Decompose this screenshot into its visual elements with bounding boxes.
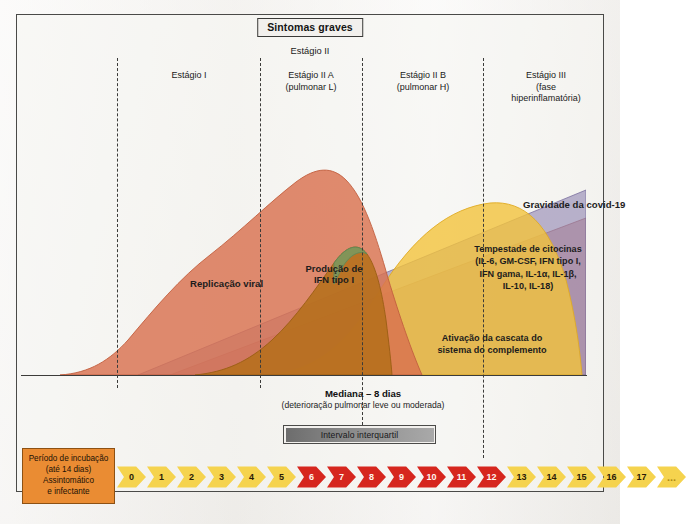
label-complement-line1: Ativação da cascata do: [437, 332, 546, 344]
day-arrow-label: 9: [399, 472, 404, 482]
label-viral-replication: Replicação viral: [190, 278, 263, 289]
day-arrow-label: 17: [636, 472, 646, 482]
day-arrow-14: 14: [537, 465, 566, 490]
day-arrow-label: 7: [339, 472, 344, 482]
label-ifn-production: Produção de IFN tipo I: [306, 263, 363, 285]
day-arrow-label: 15: [576, 472, 586, 482]
label-cytokine-line2: (IL-6, GM-CSF, IFN tipo I,: [474, 255, 581, 267]
day-arrow-label: 1: [159, 472, 164, 482]
day-arrow-10: 10: [417, 465, 446, 490]
incubation-period-box: Período de incubação (até 14 dias) Assin…: [22, 448, 115, 504]
day-arrow-label: 10: [426, 472, 436, 482]
interquartile-range-bar: Intervalo interquartil: [283, 425, 436, 444]
day-arrow-label: 6: [309, 472, 314, 482]
day-arrow-8: 8: [357, 465, 386, 490]
day-arrow-4: 4: [237, 465, 266, 490]
day-arrow-15: 15: [567, 465, 596, 490]
incubation-line3: Assintomático: [43, 476, 94, 487]
incubation-line1: Período de incubação: [29, 454, 109, 465]
day-arrow-label: 16: [606, 472, 616, 482]
label-cytokine-line4: IL-10, IL-18): [474, 280, 581, 292]
day-arrow-16: 16: [597, 465, 626, 490]
day-arrow-5: 5: [267, 465, 296, 490]
day-arrow-7: 7: [327, 465, 356, 490]
day-arrow-label: 5: [279, 472, 284, 482]
median-line2: (deterioração pulmonar leve ou moderada): [282, 400, 445, 410]
day-arrow-12: 12: [477, 465, 506, 490]
day-arrow-3: 3: [207, 465, 236, 490]
day-arrow-label: 8: [369, 472, 374, 482]
median-line1: Mediana – 8 dias: [282, 388, 445, 399]
severe-symptoms-title: Sintomas graves: [257, 18, 363, 37]
day-arrow-label: 4: [249, 472, 254, 482]
day-timeline: 01234567891011121314151617...: [117, 462, 687, 492]
median-annotation: Mediana – 8 dias (deterioração pulmonar …: [282, 388, 445, 410]
label-complement-line2: sistema do complemento: [437, 344, 546, 356]
day-arrow-label: 13: [516, 472, 526, 482]
chart-baseline: [21, 375, 587, 376]
epidemic-curves-plot: [20, 40, 586, 380]
day-arrow-label: 14: [546, 472, 556, 482]
label-cytokine-storm: Tempestade de citocinas (IL-6, GM-CSF, I…: [474, 243, 581, 292]
day-arrow-...: ...: [657, 465, 686, 490]
day-arrow-17: 17: [627, 465, 656, 490]
iqr-label: Intervalo interquartil: [321, 430, 399, 440]
iqr-fill: Intervalo interquartil: [286, 428, 434, 442]
incubation-line4: e infectante: [47, 487, 89, 498]
day-arrow-9: 9: [387, 465, 416, 490]
label-cytokine-line3: IFN gama, IL-1α, IL-1β,: [474, 268, 581, 280]
label-cytokine-line1: Tempestade de citocinas: [474, 243, 581, 255]
day-arrow-label: 2: [189, 472, 194, 482]
day-arrow-1: 1: [147, 465, 176, 490]
incubation-line2: (até 14 dias): [46, 465, 92, 476]
label-complement-cascade: Ativação da cascata do sistema do comple…: [437, 332, 546, 357]
stage-divider-1: [117, 58, 118, 388]
label-ifn-line2: IFN tipo I: [306, 274, 363, 285]
day-arrow-11: 11: [447, 465, 476, 490]
day-arrow-2: 2: [177, 465, 206, 490]
day-arrow-0: 0: [117, 465, 146, 490]
label-ifn-line1: Produção de: [306, 263, 363, 274]
day-arrow-label: 11: [457, 472, 467, 482]
day-arrow-label: ...: [667, 471, 676, 483]
day-arrow-label: 0: [129, 472, 134, 482]
day-arrow-13: 13: [507, 465, 536, 490]
label-covid-severity: Gravidade da covid-19: [523, 199, 625, 210]
stage-divider-2: [260, 58, 261, 388]
day-arrow-label: 3: [219, 472, 224, 482]
day-arrow-6: 6: [297, 465, 326, 490]
day-arrow-label: 12: [486, 472, 496, 482]
